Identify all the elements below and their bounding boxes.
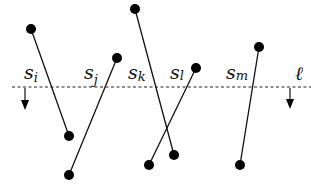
endpoint [169,150,179,160]
diagram-canvas: si sj sk sl sm ℓ [0,0,311,189]
endpoint [64,170,74,180]
endpoint [235,160,245,170]
label-s-l: sl [170,61,184,83]
label-s-j: sj [84,61,98,87]
endpoint [112,53,122,63]
endpoint [144,160,154,170]
endpoint [254,42,264,52]
endpoint [26,24,36,34]
label-s-i: si [24,61,38,85]
label-s-k: sk [128,61,146,84]
segment-s-m [235,42,264,170]
endpoint [64,131,74,141]
label-sweep-line: ℓ [295,62,303,84]
sweep-line-diagram: si sj sk sl sm ℓ [0,0,311,189]
sweep-arrow-right [286,88,294,109]
endpoint [130,4,140,14]
label-s-m: sm [226,61,248,83]
sweep-arrow-left [21,88,29,110]
endpoint [191,63,201,73]
